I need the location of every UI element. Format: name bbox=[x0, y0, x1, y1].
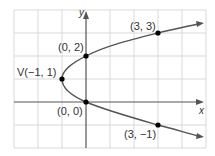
lower-arrow bbox=[196, 133, 204, 139]
y-axis-label: y bbox=[79, 8, 84, 18]
vertex-label: V(−1, 1) bbox=[17, 67, 56, 78]
x-axis-label: x bbox=[199, 106, 204, 116]
parabola-graph bbox=[0, 0, 215, 156]
point-0-2-label: (0, 2) bbox=[58, 42, 84, 53]
grid bbox=[14, 10, 206, 148]
upper-arrow bbox=[196, 21, 204, 27]
point-0-0-label: (0, 0) bbox=[57, 106, 83, 117]
point-3-3-label: (3, 3) bbox=[130, 21, 156, 32]
point-3-neg1-label: (3, −1) bbox=[124, 129, 156, 140]
